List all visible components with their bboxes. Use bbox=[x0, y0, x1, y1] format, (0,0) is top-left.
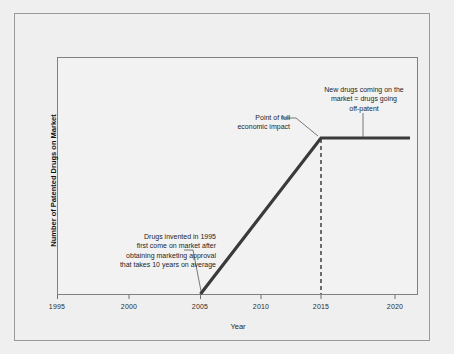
chart-graphics bbox=[0, 0, 454, 354]
annotation-invention-line-1: Drugs invented in 1995 bbox=[66, 232, 216, 241]
x-tick-label-2010: 2010 bbox=[253, 303, 269, 310]
annotation-full-impact-line-1: Point of full bbox=[180, 113, 290, 122]
data-series-line bbox=[201, 138, 411, 294]
annotation-invention-line-4: that takes 10 years on average bbox=[66, 260, 216, 269]
annotation-full-impact-line-2: economic impact bbox=[180, 122, 290, 131]
chart-figure: 1995 2000 2005 2010 2015 2020 Year Numbe… bbox=[0, 0, 454, 354]
x-tick-label-2020: 2020 bbox=[387, 303, 403, 310]
x-tick-label-2005: 2005 bbox=[192, 303, 208, 310]
annotation-off-patent-balance: New drugs coming on the market = drugs g… bbox=[308, 85, 420, 113]
annotation-invention-lag: Drugs invented in 1995 first come on mar… bbox=[66, 232, 216, 270]
annotation-off-patent-line-2: market = drugs going bbox=[308, 94, 420, 103]
y-axis-title: Number of Patented Drugs on Market bbox=[49, 71, 58, 291]
x-tick-label-2000: 2000 bbox=[121, 303, 137, 310]
annotation-off-patent-line-1: New drugs coming on the bbox=[308, 85, 420, 94]
x-axis-title: Year bbox=[230, 322, 245, 331]
x-tick-label-1995: 1995 bbox=[49, 303, 65, 310]
annotation-invention-line-3: obtaining marketing approval bbox=[66, 251, 216, 260]
annotation-off-patent-line-3: off-patent bbox=[308, 104, 420, 113]
annotation-invention-line-2: first come on market after bbox=[66, 241, 216, 250]
x-axis-ticks bbox=[58, 295, 396, 299]
x-tick-label-2015: 2015 bbox=[313, 303, 329, 310]
annotation-full-economic-impact: Point of full economic impact bbox=[180, 113, 290, 132]
